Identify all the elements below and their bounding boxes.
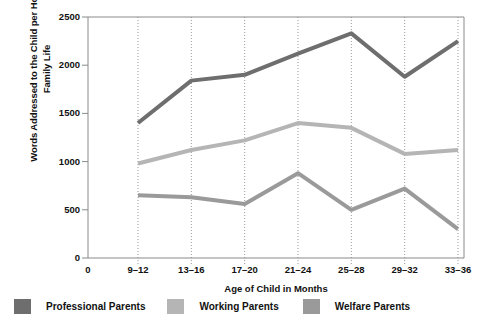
y-tick-label: 1000 xyxy=(28,156,80,167)
y-tick-label: 500 xyxy=(28,204,80,215)
axis-frame xyxy=(88,17,464,258)
y-tick-label: 0 xyxy=(28,252,80,263)
x-tick-label: 21–24 xyxy=(268,264,328,275)
x-tick-label: 9–12 xyxy=(108,264,168,275)
x-tick-label: 29–32 xyxy=(375,264,435,275)
x-tick-label: 17–20 xyxy=(215,264,275,275)
legend-item-professional: Professional Parents xyxy=(14,299,145,314)
y-tick-label: 1500 xyxy=(28,107,80,118)
legend-swatch-welfare xyxy=(303,299,320,314)
legend-swatch-working xyxy=(167,299,184,314)
legend-label-welfare: Welfare Parents xyxy=(335,301,410,312)
x-tick-label: 33–36 xyxy=(428,264,480,275)
chart-legend: Professional Parents Working Parents Wel… xyxy=(14,299,410,314)
y-tick-label: 2000 xyxy=(28,59,80,70)
legend-item-working: Working Parents xyxy=(167,299,278,314)
legend-item-welfare: Welfare Parents xyxy=(303,299,410,314)
y-tick-label: 2500 xyxy=(28,11,80,22)
x-tick-label: 25–28 xyxy=(321,264,381,275)
legend-label-professional: Professional Parents xyxy=(46,301,145,312)
y-axis-ticks xyxy=(82,17,88,258)
legend-label-working: Working Parents xyxy=(199,301,278,312)
x-tick-label: 13–16 xyxy=(161,264,221,275)
x-axis-title: Age of Child in Months xyxy=(88,283,464,294)
legend-swatch-professional xyxy=(14,299,31,314)
chart-container: Words Addressed to the Child per Hour of… xyxy=(0,0,480,332)
